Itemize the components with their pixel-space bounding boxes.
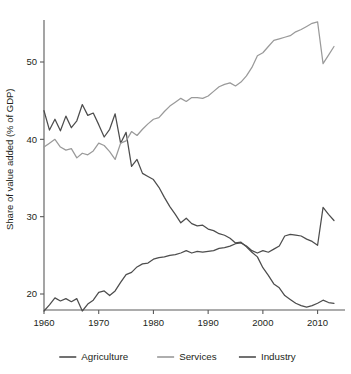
y-tick-label: 50 <box>26 56 37 67</box>
legend-label-agriculture[interactable]: Agriculture <box>81 351 128 362</box>
x-tick-label: 2010 <box>307 317 328 328</box>
line-chart: 20304050 196019701980199020002010 Share … <box>0 0 351 374</box>
x-tick-label: 2000 <box>252 317 273 328</box>
y-tick-label: 20 <box>26 288 37 299</box>
y-tick-label: 40 <box>26 134 37 145</box>
y-tick-label: 30 <box>26 211 37 222</box>
chart-container: 20304050 196019701980199020002010 Share … <box>0 0 351 374</box>
x-axis-ticks: 196019701980199020002010 <box>33 310 328 328</box>
series-line-services <box>44 22 334 160</box>
legend-label-services[interactable]: Services <box>179 351 217 362</box>
series-lines <box>44 22 334 311</box>
series-line-agriculture <box>44 105 334 308</box>
y-axis: 20304050 <box>26 20 44 310</box>
series-line-industry <box>44 207 334 311</box>
x-tick-label: 1960 <box>33 317 54 328</box>
legend-label-industry[interactable]: Industry <box>261 351 296 362</box>
x-tick-label: 1990 <box>198 317 219 328</box>
y-axis-ticks: 20304050 <box>26 56 44 299</box>
x-axis: 196019701980199020002010 <box>33 310 345 328</box>
x-tick-label: 1970 <box>88 317 109 328</box>
chart-legend: AgricultureServicesIndustry <box>59 351 296 362</box>
x-tick-label: 1980 <box>143 317 164 328</box>
y-axis-title: Share of value added (% of GDP) <box>4 88 15 230</box>
